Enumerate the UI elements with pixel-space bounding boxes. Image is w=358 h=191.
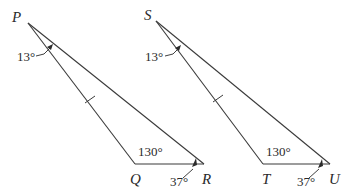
angle-label-q: 130° xyxy=(138,145,163,158)
angle-label-u: 37° xyxy=(297,175,315,188)
angle-p-pointer xyxy=(36,44,53,56)
vertex-label-u: U xyxy=(329,172,340,187)
vertex-label-t: T xyxy=(262,172,270,187)
congruent-triangles-diagram: P Q R S T U 13° 130° 37° 13° 130° 37° xyxy=(0,0,358,191)
vertex-label-s: S xyxy=(144,8,152,23)
angle-label-p: 13° xyxy=(17,50,35,63)
vertex-label-r: R xyxy=(202,172,211,187)
triangle-stu xyxy=(156,21,330,178)
diagram-canvas xyxy=(0,0,358,191)
vertex-label-q: Q xyxy=(130,172,141,187)
angle-label-s: 13° xyxy=(145,50,163,63)
vertex-label-p: P xyxy=(12,10,21,25)
side-su xyxy=(156,21,330,164)
angle-label-r: 37° xyxy=(170,175,188,188)
side-pr xyxy=(28,23,204,164)
side-st xyxy=(156,21,263,164)
side-pq xyxy=(28,23,135,164)
triangle-pqr xyxy=(28,23,204,178)
angle-s-pointer xyxy=(165,45,181,56)
angle-label-t: 130° xyxy=(266,145,291,158)
